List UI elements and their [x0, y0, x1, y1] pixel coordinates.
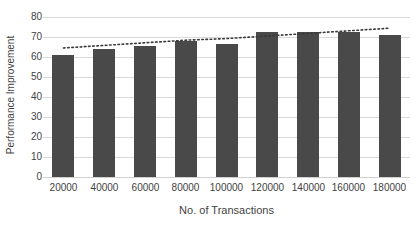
- y-axis-tick-labels: 01020304050607080: [18, 0, 42, 231]
- y-tick-label: 50: [18, 72, 42, 82]
- x-tick-label: 60000: [125, 182, 166, 194]
- x-axis-tick-labels: 2000040000600008000010000012000014000016…: [43, 182, 410, 198]
- x-tick-label: 160000: [328, 182, 369, 194]
- y-tick-label: 0: [18, 172, 42, 182]
- y-tick-label: 80: [18, 12, 42, 22]
- bar: [379, 35, 401, 177]
- bar: [134, 46, 156, 177]
- y-tick-label: 40: [18, 92, 42, 102]
- x-axis-title: No. of Transactions: [43, 203, 410, 217]
- gridline-0: [43, 177, 410, 178]
- bar: [52, 55, 74, 177]
- plot-area: [43, 17, 410, 177]
- bar: [93, 49, 115, 177]
- y-tick-label: 60: [18, 52, 42, 62]
- x-tick-label: 20000: [43, 182, 84, 194]
- x-tick-label: 180000: [369, 182, 410, 194]
- bar-series: [43, 17, 410, 177]
- x-tick-label: 100000: [206, 182, 247, 194]
- bar: [175, 41, 197, 177]
- y-tick-label: 70: [18, 32, 42, 42]
- x-tick-label: 40000: [84, 182, 125, 194]
- bar: [256, 32, 278, 177]
- bar: [297, 32, 319, 177]
- y-tick-label: 20: [18, 132, 42, 142]
- bar: [338, 32, 360, 177]
- y-tick-label: 30: [18, 112, 42, 122]
- x-tick-label: 120000: [247, 182, 288, 194]
- y-tick-label: 10: [18, 152, 42, 162]
- chart-container: Performance Improvement 0102030405060708…: [0, 0, 418, 231]
- x-tick-label: 140000: [288, 182, 329, 194]
- bar: [216, 44, 238, 177]
- x-tick-label: 80000: [165, 182, 206, 194]
